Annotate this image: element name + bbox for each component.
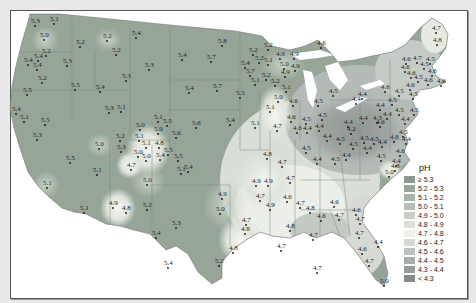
station-dot xyxy=(312,239,314,241)
station-dot xyxy=(361,98,363,100)
station-ph-value: 4.9 xyxy=(276,50,285,58)
station-ph-value: 4.5 xyxy=(331,155,340,163)
station-ph-value: 5.5 xyxy=(164,146,173,154)
station-dot xyxy=(99,91,101,93)
legend-label: 5.0 - 5.1 xyxy=(418,203,444,210)
legend-swatch xyxy=(404,248,415,255)
station-dot xyxy=(175,227,177,229)
station-ph-value: 5.5 xyxy=(23,86,32,94)
station-ph-value: 4.8 xyxy=(155,139,164,147)
station-marker: 4.7 xyxy=(313,264,322,274)
station-ph-value: 4.7 xyxy=(365,257,374,265)
station-ph-value: 4.5 xyxy=(395,106,404,114)
station-dot xyxy=(167,267,169,269)
station-dot xyxy=(398,114,400,116)
station-dot xyxy=(146,209,148,211)
station-ph-value: 4.6 xyxy=(381,83,390,91)
station-dot xyxy=(379,126,381,128)
legend-item: 5.1 - 5.2 xyxy=(404,193,464,202)
station-ph-value: 4.6 xyxy=(402,55,411,63)
station-dot xyxy=(417,81,419,83)
station-ph-value: 4.7 xyxy=(313,264,322,272)
station-dot xyxy=(377,246,379,248)
station-ph-value: 4.5 xyxy=(314,97,323,105)
legend-item: 4.9 - 5.0 xyxy=(404,211,464,220)
station-ph-value: 4.4 xyxy=(402,135,411,143)
station-ph-value: 5.1 xyxy=(142,139,151,147)
station-dot xyxy=(440,85,442,87)
station-dot xyxy=(112,207,114,209)
station-dot xyxy=(36,69,38,71)
station-ph-value: 5.1 xyxy=(264,56,273,64)
station-dot xyxy=(175,137,177,139)
station-dot xyxy=(326,140,328,142)
station-dot xyxy=(339,143,341,145)
station-dot xyxy=(120,111,122,113)
legend-swatch xyxy=(404,194,415,201)
station-ph-value: 5.1 xyxy=(251,119,260,127)
station-ph-value: 5.6 xyxy=(172,129,181,137)
station-ph-value: 5.8 xyxy=(218,37,227,45)
station-ph-value: 4.9 xyxy=(281,68,290,76)
station-ph-value: 5.7 xyxy=(246,67,255,75)
station-dot xyxy=(177,160,179,162)
station-dot xyxy=(138,140,140,142)
station-dot xyxy=(404,123,406,125)
station-dot xyxy=(221,45,223,47)
station-dot xyxy=(83,212,85,214)
station-ph-value: 4.6 xyxy=(317,39,326,47)
station-dot xyxy=(338,219,340,221)
station-dot xyxy=(255,185,257,187)
station-dot xyxy=(416,62,418,64)
station-dot xyxy=(239,97,241,99)
station-ph-value: 4.5 xyxy=(388,96,397,104)
station-ph-value: 4.6 xyxy=(330,198,339,206)
station-dot xyxy=(345,159,347,161)
legend-item: 4.3 - 4.4 xyxy=(404,265,464,274)
station-ph-value: 5.3 xyxy=(172,219,181,227)
station-ph-value: 4.4 xyxy=(323,132,332,140)
station-ph-value: 5.0 xyxy=(385,168,394,176)
legend-swatch xyxy=(404,239,415,246)
station-ph-value: 4.8 xyxy=(433,36,442,44)
station-ph-value: 5.2 xyxy=(271,77,280,85)
station-ph-value: 4.9 xyxy=(266,201,275,209)
station-ph-value: 5.0 xyxy=(136,121,145,129)
station-ph-value: 4.6 xyxy=(376,118,385,126)
station-ph-value: 4.8 xyxy=(306,204,315,212)
station-dot xyxy=(321,119,323,121)
station-dot xyxy=(79,46,81,48)
station-dot xyxy=(277,101,279,103)
station-ph-value: 4.4 xyxy=(359,114,368,122)
station-ph-value: 4.7 xyxy=(355,229,364,237)
station-dot xyxy=(130,169,132,171)
station-dot xyxy=(53,23,55,25)
station-dot xyxy=(267,49,269,51)
station-dot xyxy=(361,253,363,255)
station-ph-value: 4.7 xyxy=(413,54,422,62)
station-ph-value: 4.5 xyxy=(395,87,404,95)
station-dot xyxy=(373,143,375,145)
station-ph-value: 5.3 xyxy=(145,61,154,69)
station-ph-value: 5.0 xyxy=(142,152,151,160)
station-dot xyxy=(427,84,429,86)
station-ph-value: 5.5 xyxy=(163,117,172,125)
station-dot xyxy=(148,69,150,71)
station-ph-value: 5.0 xyxy=(380,277,389,285)
station-dot xyxy=(69,162,71,164)
station-ph-value: 5.3 xyxy=(122,72,131,80)
station-dot xyxy=(157,121,159,123)
station-dot xyxy=(43,39,45,41)
station-dot xyxy=(355,214,357,216)
station-ph-value: 5.4 xyxy=(184,163,193,171)
station-dot xyxy=(383,285,385,287)
station-ph-value: 5.5 xyxy=(71,81,80,89)
station-ph-value: 5.4 xyxy=(24,56,33,64)
station-dot xyxy=(316,272,318,274)
station-ph-value: 5.0 xyxy=(216,205,225,213)
station-dot xyxy=(254,127,256,129)
station-ph-value: 5.2 xyxy=(103,32,112,40)
station-dot xyxy=(66,65,68,67)
station-dot xyxy=(219,213,221,215)
station-dot xyxy=(269,111,271,113)
